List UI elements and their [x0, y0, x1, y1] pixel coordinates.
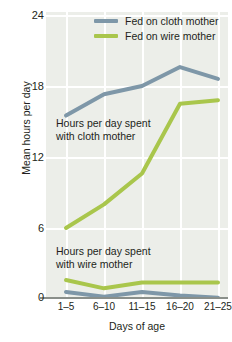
x-tick-label: 6–10 [93, 301, 115, 312]
annotation-line-2: with wire mother [56, 258, 151, 271]
y-axis-title: Mean hours per day [20, 58, 32, 198]
chart-legend: Fed on cloth mother Fed on wire mother [94, 14, 218, 44]
x-axis-title: Days of age [46, 320, 228, 332]
x-tick-label: 16–20 [166, 301, 194, 312]
y-tick-label: 6 [2, 222, 44, 234]
annotation-line-2: with cloth mother [56, 130, 151, 143]
y-tick-label: 0 [2, 291, 44, 303]
legend-swatch-icon [94, 19, 118, 24]
annotation-cloth-mother: Hours per day spent with cloth mother [56, 117, 151, 143]
legend-item-wire: Fed on wire mother [94, 29, 218, 43]
x-tick-label: 11–15 [128, 301, 155, 312]
legend-label: Fed on cloth mother [125, 15, 218, 27]
x-tick-label: 1–5 [58, 301, 75, 312]
chart-container: 24 18 12 6 0 Mean hours per day 1–5 6–10… [0, 0, 232, 342]
line-fed-cloth-with-cloth-mother [66, 67, 218, 116]
y-tick-label: 24 [2, 9, 44, 21]
x-tick-label: 21–25 [204, 301, 232, 312]
legend-item-cloth: Fed on cloth mother [94, 14, 218, 28]
annotation-wire-mother: Hours per day spent with wire mother [56, 245, 151, 271]
legend-label: Fed on wire mother [125, 30, 215, 42]
annotation-line-1: Hours per day spent [56, 117, 151, 130]
line-fed-wire-with-wire-mother [66, 280, 218, 288]
legend-swatch-icon [94, 34, 118, 39]
annotation-line-1: Hours per day spent [56, 245, 151, 258]
x-axis-line [40, 297, 228, 299]
